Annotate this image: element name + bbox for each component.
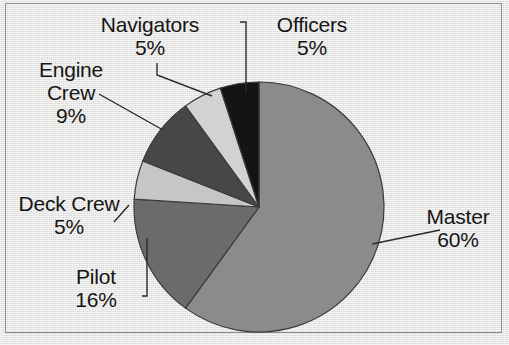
slice-label-officers-name: Officers bbox=[277, 13, 347, 36]
slice-label-navigators-percent: 5% bbox=[82, 36, 218, 59]
slice-label-deck-crew-percent: 5% bbox=[4, 215, 134, 238]
leader-line-navigators bbox=[157, 63, 212, 96]
slice-label-deck-crew: Deck Crew 5% bbox=[4, 192, 134, 238]
slice-label-officers: Officers 5% bbox=[252, 13, 372, 59]
slice-label-master-percent: 60% bbox=[412, 228, 504, 251]
slice-label-engine-crew: Engine Crew 9% bbox=[12, 58, 130, 127]
slice-label-engine-crew-percent: 9% bbox=[12, 104, 130, 127]
slice-label-engine-crew-name-line1: Engine bbox=[39, 58, 103, 81]
leader-line-officers bbox=[240, 22, 246, 92]
slice-label-deck-crew-name: Deck Crew bbox=[19, 192, 120, 215]
pie-slices bbox=[134, 82, 384, 332]
pie-chart-figure: Navigators 5% Officers 5% Engine Crew 9%… bbox=[0, 0, 509, 345]
slice-label-officers-percent: 5% bbox=[252, 36, 372, 59]
slice-label-navigators-name: Navigators bbox=[101, 13, 199, 36]
slice-label-pilot-name: Pilot bbox=[76, 265, 116, 288]
slice-label-master-name: Master bbox=[427, 205, 490, 228]
slice-label-navigators: Navigators 5% bbox=[82, 13, 218, 59]
slice-label-pilot: Pilot 16% bbox=[54, 265, 138, 311]
slice-label-pilot-percent: 16% bbox=[54, 288, 138, 311]
slice-label-engine-crew-name-line2: Crew bbox=[12, 81, 130, 104]
slice-label-master: Master 60% bbox=[412, 205, 504, 251]
